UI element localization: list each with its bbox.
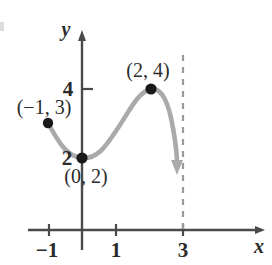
- point-label-0-2: (0, 2): [64, 166, 107, 186]
- x-axis: [28, 226, 265, 234]
- data-point-0-2: [76, 152, 87, 163]
- x-axis-label: x: [254, 236, 264, 256]
- y-tick-marks: [82, 89, 93, 158]
- y-axis: [78, 30, 86, 250]
- point-label-2-4: (2, 4): [126, 60, 169, 80]
- x-tick-label-3: 3: [178, 240, 189, 261]
- data-point-neg1-3: [43, 118, 53, 128]
- x-tick-label-neg1: −1: [36, 240, 58, 261]
- point-label-neg1-3: (−1, 3): [17, 97, 72, 117]
- data-point-2-4: [145, 83, 156, 94]
- coordinate-plot: [0, 0, 272, 265]
- y-axis-label: y: [62, 19, 71, 39]
- curve-arrowhead: [171, 160, 183, 175]
- graph-figure: y x 4 2 −1 1 3 (−1, 3) (0, 2) (2, 4): [0, 0, 272, 265]
- x-tick-label-1: 1: [111, 240, 122, 261]
